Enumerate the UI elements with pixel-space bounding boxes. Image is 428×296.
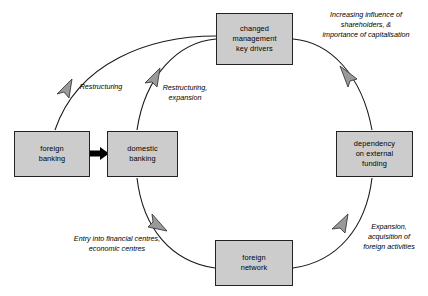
node-label-line: banking: [39, 154, 66, 164]
edge-label-line: foreign activities: [352, 242, 426, 252]
edge-label-line: economic centres: [58, 244, 176, 254]
edge-label-restructuring-expansion: Restructuring, expansion: [157, 83, 213, 103]
edge-label-increasing-influence: Increasing influence of shareholders, & …: [306, 10, 426, 39]
node-domestic-banking[interactable]: domestic banking: [107, 131, 178, 177]
node-dependency-on-external-funding[interactable]: dependency on external funding: [336, 131, 413, 177]
edge-label-line: shareholders, &: [306, 20, 426, 30]
node-foreign-banking[interactable]: foreign banking: [14, 131, 90, 177]
cycle-diagram: changed management key drivers dependenc…: [0, 0, 428, 296]
edge-label-line: importance of capitalisation: [306, 30, 426, 40]
edge-label-line: Entry into financial centres,: [58, 234, 176, 244]
arrowhead-to-network: [148, 214, 167, 231]
node-label-line: on external: [356, 149, 394, 159]
node-changed-management-key-drivers[interactable]: changed management key drivers: [216, 13, 293, 65]
edge-label-line: Expansion,: [352, 222, 426, 232]
edge-label-entry-into-financial-centres: Entry into financial centres, economic c…: [58, 234, 176, 254]
edge-label-line: Restructuring: [72, 82, 130, 92]
edge-label-line: acquisition of: [352, 232, 426, 242]
arc-network-to-domestic: [137, 178, 215, 268]
edge-label-expansion-acquisition: Expansion, acquisition of foreign activi…: [352, 222, 426, 251]
node-label-line: dependency: [354, 139, 395, 149]
edge-label-restructuring: Restructuring: [72, 82, 130, 92]
node-label-line: network: [241, 263, 268, 273]
arrowhead-to-dependency: [332, 214, 348, 233]
edge-label-line: Restructuring,: [157, 83, 213, 93]
edge-label-line: Increasing influence of: [306, 10, 426, 20]
arc-management-to-dependency: [293, 39, 372, 130]
node-label-line: domestic: [127, 144, 157, 154]
node-label-line: foreign: [242, 253, 265, 263]
arrowhead-to-management-right: [340, 66, 357, 87]
node-label-line: banking: [129, 154, 156, 164]
node-foreign-network[interactable]: foreign network: [215, 240, 293, 286]
arrowhead-to-foreign-banking: [57, 79, 72, 98]
node-label-line: foreign: [40, 144, 63, 154]
node-label-line: management: [232, 34, 276, 44]
node-label-line: key drivers: [236, 44, 273, 54]
node-label-line: funding: [362, 159, 387, 169]
node-label-line: changed: [240, 24, 269, 34]
edge-label-line: expansion: [157, 93, 213, 103]
